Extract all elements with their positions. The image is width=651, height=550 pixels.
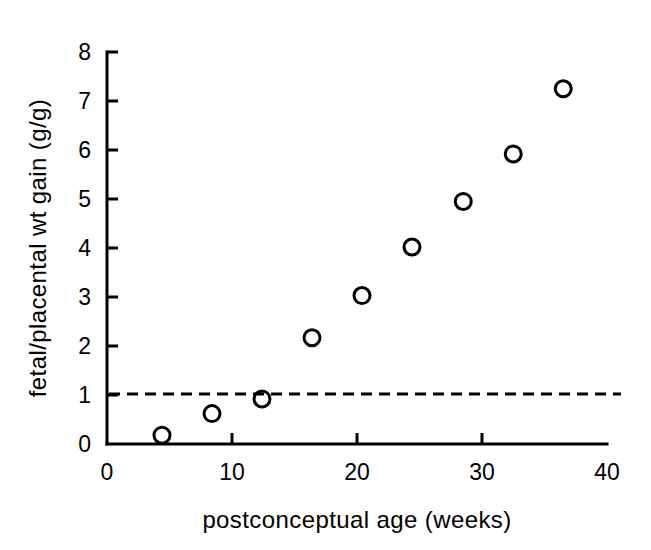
- data-point-marker: [204, 406, 220, 422]
- data-point-marker: [505, 146, 521, 162]
- data-point-marker: [455, 193, 471, 209]
- y-tick-label: 0: [78, 431, 91, 457]
- data-point-marker: [304, 330, 320, 346]
- y-axis-tick-labels: 012345678: [78, 39, 91, 457]
- x-axis-group: 010203040: [101, 433, 620, 485]
- y-tick-label: 6: [78, 137, 91, 163]
- plot-canvas: 012345678 010203040 postconceptual age (…: [0, 0, 651, 550]
- y-axis-ticks: [107, 52, 118, 395]
- data-point-marker: [555, 81, 571, 97]
- data-point-group: [154, 81, 571, 443]
- data-point-marker: [404, 239, 420, 255]
- y-tick-label: 1: [78, 382, 91, 408]
- x-axis-tick-labels: 010203040: [101, 459, 620, 485]
- y-tick-label: 7: [78, 88, 91, 114]
- data-point-marker: [154, 427, 170, 443]
- x-axis-title: postconceptual age (weeks): [202, 506, 511, 533]
- y-tick-label: 8: [78, 39, 91, 65]
- y-axis-title: fetal/placental wt gain (g/g): [24, 99, 51, 397]
- x-axis-ticks: [232, 433, 482, 444]
- y-tick-label: 5: [78, 186, 91, 212]
- x-tick-label: 30: [469, 459, 495, 485]
- scatter-plot-figure: 012345678 010203040 postconceptual age (…: [0, 0, 651, 550]
- y-tick-label: 4: [78, 235, 91, 261]
- y-tick-label: 2: [78, 333, 91, 359]
- data-point-marker: [354, 288, 370, 304]
- x-tick-label: 40: [594, 459, 620, 485]
- x-tick-label: 20: [344, 459, 370, 485]
- x-tick-label: 10: [219, 459, 245, 485]
- y-tick-label: 3: [78, 284, 91, 310]
- x-tick-label: 0: [101, 459, 114, 485]
